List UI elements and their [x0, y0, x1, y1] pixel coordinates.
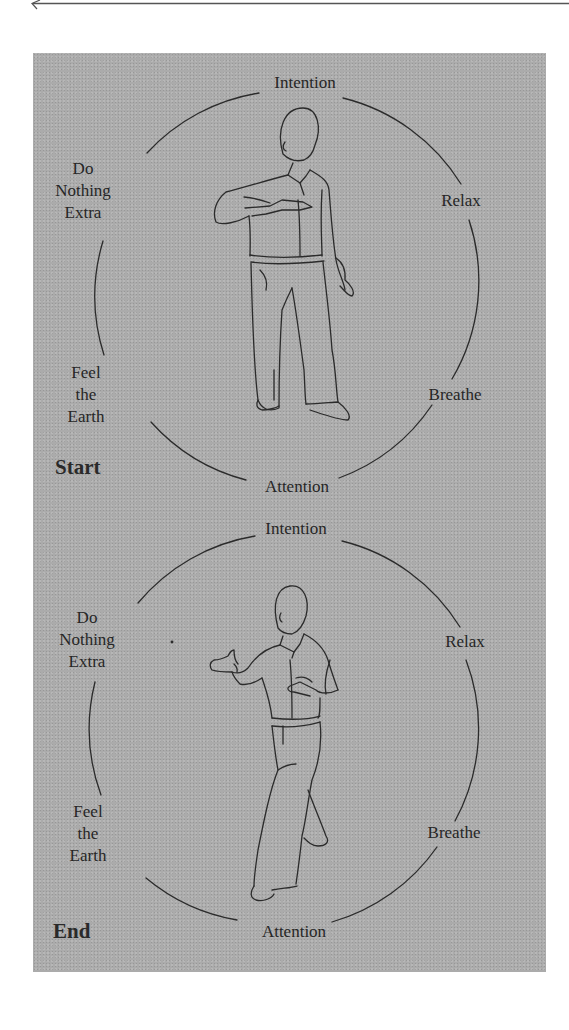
- label-intention-start: Intention: [274, 73, 335, 93]
- stepping-figure-end-pose: [210, 586, 338, 901]
- label-line: Extra: [55, 202, 111, 224]
- stray-dot: [171, 641, 173, 643]
- label-breathe-end: Breathe: [428, 823, 481, 843]
- label-feel-the-earth-start: Feel the Earth: [68, 362, 105, 428]
- label-line: Earth: [68, 406, 105, 428]
- label-do-nothing-extra-end: Do Nothing Extra: [59, 607, 115, 673]
- principles-circle-start: [95, 93, 479, 480]
- label-line: Do: [55, 158, 111, 180]
- label-relax-end: Relax: [445, 632, 485, 652]
- label-line: Nothing: [55, 180, 111, 202]
- label-line: Extra: [59, 651, 115, 673]
- label-line: Feel: [70, 801, 107, 823]
- label-attention-end: Attention: [262, 922, 326, 942]
- label-line: the: [68, 384, 105, 406]
- label-breathe-start: Breathe: [429, 385, 482, 405]
- label-attention-start: Attention: [265, 477, 329, 497]
- illustration-panel: Intention Do Nothing Extra Relax Feel th…: [33, 53, 546, 972]
- label-relax-start: Relax: [441, 191, 481, 211]
- label-feel-the-earth-end: Feel the Earth: [70, 801, 107, 867]
- label-intention-end: Intention: [265, 519, 326, 539]
- label-line: Feel: [68, 362, 105, 384]
- phase-label-end: End: [53, 919, 90, 943]
- phase-label-start: Start: [55, 455, 101, 479]
- principles-circle-end: [89, 536, 478, 922]
- label-line: Earth: [70, 845, 107, 867]
- label-do-nothing-extra-start: Do Nothing Extra: [55, 158, 111, 224]
- left-arrow-icon: [32, 0, 569, 9]
- top-arrow-rule: [0, 0, 569, 14]
- label-line: the: [70, 823, 107, 845]
- label-line: Do: [59, 607, 115, 629]
- standing-figure-start-pose: [214, 108, 353, 420]
- label-line: Nothing: [59, 629, 115, 651]
